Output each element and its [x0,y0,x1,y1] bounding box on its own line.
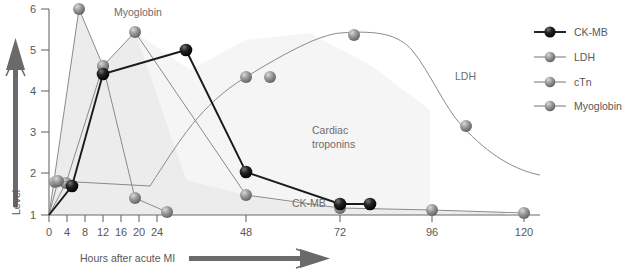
x-tick-label: 20 [133,226,145,238]
y-tick-label: 2 [30,167,36,179]
cardiac-marker-chart: 6 5 4 3 2 1 0 4 8 12 16 20 24 48 72 96 1… [0,0,623,272]
x-tick-label: 4 [64,226,70,238]
y-axis [41,9,49,215]
x-axis-arrow [189,249,330,268]
inline-label-myoglobin: Myoglobin [114,6,162,18]
data-point-ck-mb [180,44,193,57]
inline-label-cardiac-troponins-2: troponins [312,138,355,150]
legend-label-myoglobin: Myoglobin [574,100,622,112]
data-point-ctn [240,189,252,201]
legend-marker-ck-mb [544,26,555,37]
x-tick-label: 12 [97,226,109,238]
data-point-ldh [460,120,472,132]
x-tick-label: 120 [515,226,533,238]
data-point-ctn [426,204,438,216]
data-point-myoglobin [129,192,141,204]
inline-label-cardiac-troponins: Cardiac [312,124,348,136]
legend-swatches [534,26,566,111]
data-point-ck-mb [240,166,253,179]
y-tick-label: 6 [30,3,36,15]
data-point-ldh [348,29,360,41]
data-point-myoglobin [73,3,85,15]
data-point-ck-mb [66,180,79,193]
y-tick-label: 5 [30,44,36,56]
data-point-ck-mb [364,198,377,211]
legend-marker-ctn [545,77,556,88]
data-point-ldh [52,175,64,187]
data-point-myoglobin [161,206,173,218]
data-point-ctn [129,26,141,38]
x-tick-label: 48 [240,226,252,238]
x-tick-label: 72 [334,226,346,238]
data-point-ck-mb [334,198,347,211]
x-tick-label: 8 [82,226,88,238]
y-axis-arrow [6,38,25,207]
data-point-ck-mb [97,68,110,81]
x-tick-label: 24 [151,226,163,238]
legend-label-ldh: LDH [574,51,595,63]
chart-canvas: 6 5 4 3 2 1 0 4 8 12 16 20 24 48 72 96 1… [0,0,623,272]
legend-label-ctn: cTn [574,76,592,88]
y-tick-label: 1 [30,209,36,221]
x-tick-label: 0 [46,226,52,238]
inline-label-ldh: LDH [455,70,476,82]
y-axis-title: Level [10,190,22,215]
x-axis-title: Hours after acute MI [80,252,175,264]
inline-label-ck-mb: CK-MB [292,197,326,209]
y-tick-label: 4 [30,85,36,97]
legend-marker-ldh [545,52,556,63]
data-point-ldh [240,71,252,83]
x-tick-label: 96 [426,226,438,238]
x-tick-label: 16 [115,226,127,238]
legend-label-ck-mb: CK-MB [574,26,608,38]
x-axis [49,215,540,222]
data-point-ctn [518,207,530,219]
legend-marker-myoglobin [545,101,556,112]
data-point-ldh [264,71,276,83]
y-tick-label: 3 [30,126,36,138]
